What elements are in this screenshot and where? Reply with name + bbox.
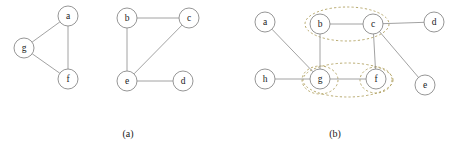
figure-canvas: agfbcedabcdhgfe	[0, 0, 464, 159]
edge-c-f	[374, 34, 376, 69]
edge-a-g	[272, 29, 313, 72]
node-a[interactable]: a	[58, 6, 78, 26]
edge-c-d	[383, 22, 424, 23]
node-g[interactable]: g	[310, 69, 330, 89]
edge-a-g	[32, 22, 60, 42]
node-label-h: h	[263, 74, 268, 84]
panel-a-edges	[32, 18, 182, 81]
node-label-e: e	[125, 76, 129, 86]
node-b[interactable]: b	[310, 14, 330, 34]
node-f[interactable]: f	[366, 69, 386, 89]
graph-figure: agfbcedabcdhgfe (a) (b)	[0, 0, 464, 159]
node-label-e: e	[423, 80, 427, 90]
node-b[interactable]: b	[117, 8, 137, 28]
node-c[interactable]: c	[179, 8, 199, 28]
node-label-d: d	[432, 17, 437, 27]
node-a[interactable]: a	[255, 12, 275, 32]
edge-g-f	[32, 54, 60, 73]
node-e[interactable]: e	[117, 71, 137, 91]
panel-a: agfbced	[14, 6, 199, 91]
panel-a-caption: (a)	[108, 128, 148, 139]
node-label-b: b	[318, 19, 323, 29]
node-h[interactable]: h	[255, 69, 275, 89]
node-label-d: d	[181, 76, 186, 86]
node-d[interactable]: d	[424, 12, 444, 32]
edge-c-e	[379, 32, 418, 78]
node-d[interactable]: d	[173, 71, 193, 91]
edge-c-e	[134, 25, 182, 74]
panel-b-caption: (b)	[315, 128, 355, 139]
node-label-b: b	[125, 13, 130, 23]
node-label-c: c	[187, 13, 191, 23]
node-label-g: g	[318, 74, 323, 84]
node-c[interactable]: c	[363, 14, 383, 34]
panel-a-nodes: agfbced	[14, 6, 199, 91]
node-e[interactable]: e	[415, 75, 435, 95]
panel-b: abcdhgfe	[255, 7, 444, 97]
panel-b-edges	[272, 22, 424, 79]
node-f[interactable]: f	[58, 69, 78, 89]
node-label-c: c	[371, 19, 375, 29]
panel-b-nodes: abcdhgfe	[255, 12, 444, 95]
node-label-g: g	[22, 43, 27, 53]
node-g[interactable]: g	[14, 38, 34, 58]
